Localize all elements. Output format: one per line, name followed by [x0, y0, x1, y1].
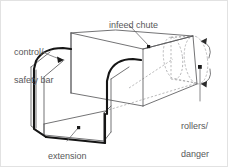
- callout-dot-rollers-danger-zone: [198, 65, 202, 69]
- callout-leaders: [43, 25, 200, 141]
- label-control-safety-bar: control/ safety bar: [14, 30, 54, 104]
- control-safety-bar-right: [107, 59, 141, 114]
- label-extension: extension: [38, 143, 87, 167]
- label-extension-text: extension: [48, 151, 87, 161]
- hidden-edge-near-right-rim: [129, 59, 173, 88]
- label-control-safety-bar-line2: safety bar: [14, 76, 54, 85]
- roller-rotation-arrowhead-top: [201, 38, 207, 45]
- label-rollers-danger-zone-line1: rollers/: [181, 122, 209, 131]
- label-infeed-chute: infeed chute: [99, 12, 158, 40]
- chute-lower-taper-edge: [143, 84, 197, 106]
- roller-rotation-arrowhead-bottom: [201, 81, 207, 88]
- label-rollers-danger-zone-line2: danger: [181, 150, 209, 159]
- callout-dot-infeed-chute: [147, 45, 150, 48]
- label-rollers-danger-zone: rollers/ danger zone: [181, 104, 209, 167]
- label-infeed-chute-text: infeed chute: [109, 20, 158, 30]
- extension-floor-inner-edge: [44, 111, 105, 124]
- extension-right-wall-top-fold: [111, 67, 129, 79]
- hidden-edge-right-lower: [171, 79, 197, 83]
- chute-solid-linework: [31, 30, 197, 141]
- roller-rotation-arrows: [201, 41, 211, 84]
- chute-far-end-edge: [193, 36, 197, 84]
- label-control-safety-bar-line1: control/: [14, 48, 54, 57]
- infeed-chute-diagram: infeed chute control/ safety bar rollers…: [0, 0, 228, 167]
- roller-cylinder-far-ellipse: [161, 36, 185, 80]
- leader-arrowhead-control-safety-bar: [57, 57, 64, 64]
- callout-dot-extension: [77, 126, 80, 129]
